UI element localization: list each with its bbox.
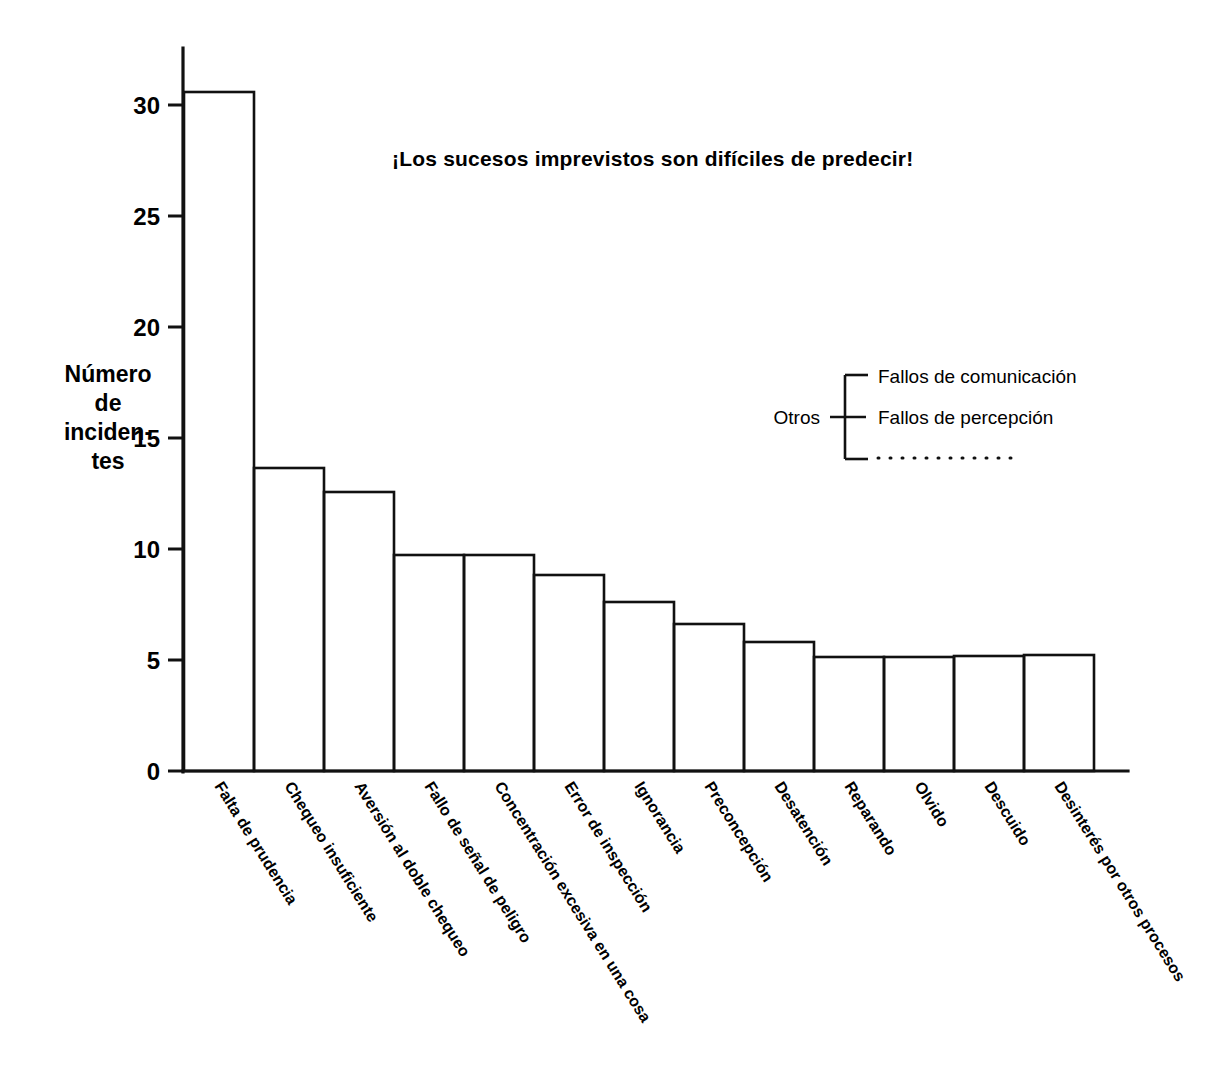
bar-concentracion-excesiva[interactable] (464, 555, 534, 771)
cat-label-5: Concentración excesiva en una cosa (491, 779, 654, 1026)
y-axis-title-line-3: inciden- (64, 419, 152, 445)
bar-chequeo-insuficiente[interactable] (254, 468, 324, 771)
legend-entry-1: Fallos de comunicación (878, 366, 1077, 387)
bar-descuido[interactable] (954, 656, 1024, 771)
y-axis-title-line-1: Número (65, 361, 152, 387)
bar-ignorancia[interactable] (604, 602, 674, 771)
cat-label-3: Aversión al doble chequeo (351, 779, 473, 960)
y-tick-label-30: 30 (133, 92, 160, 119)
y-axis-ticks (168, 105, 183, 771)
cat-label-10: Reparando (841, 779, 900, 859)
cat-label-9: Desatención (771, 779, 836, 869)
chart-title: ¡Los sucesos imprevistos son difíciles d… (392, 147, 913, 170)
y-axis-title-line-2: de (95, 390, 122, 416)
bar-olvido[interactable] (884, 657, 954, 771)
bar-fallo-de-senal-de-peligro[interactable] (394, 555, 464, 771)
bars-group (184, 92, 1094, 771)
bar-chart: 30 25 20 15 10 5 0 Número de inciden- te… (0, 0, 1207, 1065)
bar-reparando[interactable] (814, 657, 884, 771)
cat-label-7: Ignorancia (631, 779, 688, 857)
y-tick-label-0: 0 (147, 758, 160, 785)
x-axis-category-labels: Falta de prudencia Chequeo insuficiente … (211, 779, 1188, 1026)
bar-error-de-inspeccion[interactable] (534, 575, 604, 771)
y-tick-label-25: 25 (133, 203, 160, 230)
legend-entry-2: Fallos de percepción (878, 407, 1053, 428)
legend: Otros Fallos de comunicación Fallos de p… (774, 366, 1077, 459)
bar-aversion-al-doble-chequeo[interactable] (324, 492, 394, 771)
y-axis-title: Número de inciden- tes (64, 361, 152, 474)
cat-label-8: Preconcepción (701, 779, 776, 885)
y-axis-title-line-4: tes (91, 448, 124, 474)
bar-desinteres-por-otros-procesos[interactable] (1024, 655, 1094, 771)
y-tick-label-20: 20 (133, 314, 160, 341)
bar-preconcepcion[interactable] (674, 624, 744, 771)
y-axis: 30 25 20 15 10 5 0 Número de inciden- te… (64, 48, 183, 785)
cat-label-12: Descuido (981, 779, 1034, 849)
cat-label-13: Desinterés por otros procesos (1051, 779, 1188, 985)
y-tick-label-5: 5 (147, 647, 160, 674)
cat-label-11: Olvido (911, 779, 952, 830)
bar-falta-de-prudencia[interactable] (184, 92, 254, 771)
bar-desatencion[interactable] (744, 642, 814, 771)
chart-canvas: 30 25 20 15 10 5 0 Número de inciden- te… (0, 0, 1207, 1065)
legend-group-label: Otros (774, 407, 820, 428)
cat-label-1: Falta de prudencia (211, 779, 300, 908)
y-tick-label-10: 10 (133, 536, 160, 563)
